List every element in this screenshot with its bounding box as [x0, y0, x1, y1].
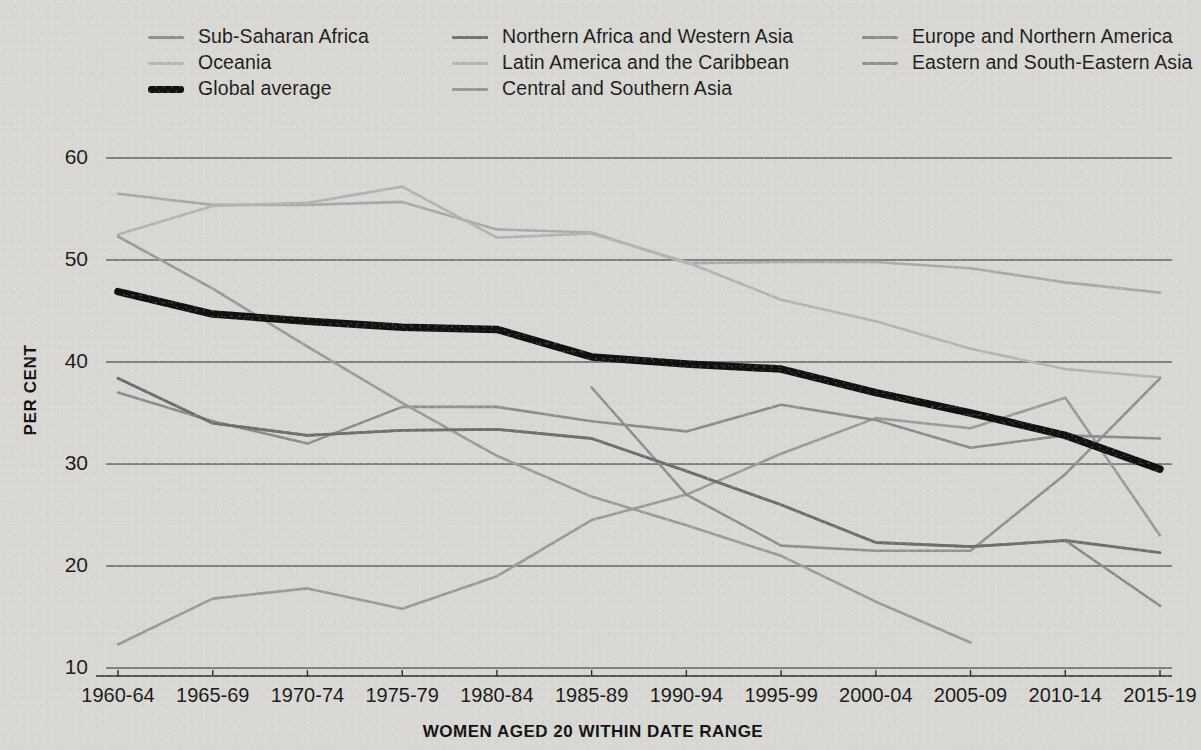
legend-item-label: Sub-Saharan Africa [198, 27, 369, 47]
legend-swatch-icon [148, 86, 184, 93]
legend-item: Central and Southern Asia [452, 76, 793, 102]
legend-item-label: Central and Southern Asia [502, 79, 732, 99]
legend-column-2: Northern Africa and Western AsiaLatin Am… [452, 24, 793, 102]
legend-item: Europe and Northern America [862, 24, 1193, 50]
legend-item: Eastern and South-Eastern Asia [862, 50, 1193, 76]
chart-legend: Sub-Saharan AfricaOceaniaGlobal average … [0, 0, 1186, 118]
series-line [118, 194, 1160, 293]
y-axis-tick-label: 60 [40, 145, 88, 169]
legend-column-1: Sub-Saharan AfricaOceaniaGlobal average [148, 24, 369, 102]
legend-swatch-icon [452, 62, 488, 65]
legend-item: Northern Africa and Western Asia [452, 24, 793, 50]
legend-item-label: Oceania [198, 53, 271, 73]
legend-column-3: Europe and Northern AmericaEastern and S… [862, 24, 1193, 76]
series-line [118, 187, 1160, 378]
y-axis-tick-label: 30 [40, 451, 88, 475]
y-axis-tick-label: 10 [40, 655, 88, 679]
legend-item: Latin America and the Caribbean [452, 50, 793, 76]
y-axis-tick-label: 50 [40, 247, 88, 271]
legend-swatch-icon [452, 36, 488, 39]
y-axis-title: PER CENT [21, 325, 41, 455]
legend-swatch-icon [452, 88, 488, 91]
legend-item: Global average [148, 76, 369, 102]
legend-item: Sub-Saharan Africa [148, 24, 369, 50]
x-axis-title: WOMEN AGED 20 WITHIN DATE RANGE [0, 722, 1186, 742]
legend-swatch-icon [148, 36, 184, 39]
legend-item-label: Latin America and the Caribbean [502, 53, 789, 73]
legend-swatch-icon [862, 62, 898, 65]
x-axis-tick-label: 2015-19 [1100, 684, 1201, 707]
legend-item-label: Europe and Northern America [912, 27, 1173, 47]
legend-item: Oceania [148, 50, 369, 76]
series-line [118, 378, 1160, 606]
series-line [118, 237, 971, 643]
y-axis-tick-label: 20 [40, 553, 88, 577]
legend-swatch-icon [148, 62, 184, 65]
legend-item-label: Northern Africa and Western Asia [502, 27, 793, 47]
legend-item-label: Global average [198, 79, 332, 99]
series-line [118, 378, 1160, 552]
y-axis-tick-label: 40 [40, 349, 88, 373]
legend-swatch-icon [862, 36, 898, 39]
legend-item-label: Eastern and South-Eastern Asia [912, 53, 1193, 73]
